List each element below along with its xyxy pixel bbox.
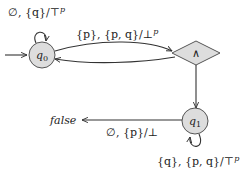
- q1-self-loop-label: {q}, {p, q}/⊤p: [157, 154, 239, 168]
- false-node: false: [49, 114, 77, 127]
- and-node: ∧: [172, 41, 220, 65]
- edge-q0-to-and-label: {p}, {p, q}/⊥p: [76, 27, 158, 41]
- q0-self-loop: [35, 32, 46, 43]
- edge-q1-to-false-label: ∅, {p}/⊥: [106, 126, 158, 139]
- q1-self-loop: [190, 134, 201, 146]
- edge-and-to-q0: [55, 57, 175, 63]
- state-q0: q0: [29, 42, 55, 68]
- q0-self-loop-label: ∅, {q}/⊤p: [8, 5, 65, 19]
- state-q1: q1: [182, 108, 208, 134]
- svg-text:∧: ∧: [192, 47, 200, 60]
- automaton-diagram: ∅, {q}/⊤p {p}, {p, q}/⊥p q0 ∧ q1 false ∅…: [0, 0, 244, 173]
- edge-q0-to-and: [55, 42, 172, 51]
